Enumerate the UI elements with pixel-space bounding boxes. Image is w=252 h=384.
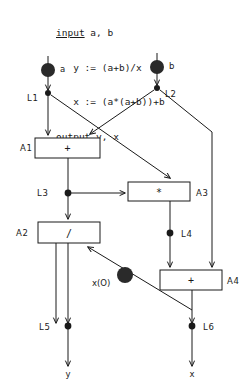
source-node-a[interactable]: a — [41, 63, 65, 77]
link-node-L2[interactable]: L2 — [154, 85, 177, 99]
link-node-L3[interactable]: L3 — [37, 188, 71, 198]
link-node-L6-dot[interactable] — [189, 323, 196, 330]
token-node-x0-label: x(O) — [92, 278, 110, 288]
dataflow-graph: + A1 * A3 / A2 + A4 a b — [0, 0, 252, 384]
source-node-b-dot[interactable] — [150, 60, 164, 74]
actor-A3-label: A3 — [196, 188, 209, 198]
link-node-L1-label: L1 — [27, 93, 39, 103]
link-node-L5-dot[interactable] — [65, 323, 72, 330]
actor-A2-operator: / — [66, 228, 72, 239]
output-label-x: x — [189, 369, 194, 379]
link-node-L2-dot[interactable] — [154, 85, 160, 91]
token-node-x0-dot[interactable] — [117, 267, 133, 283]
link-node-L1[interactable]: L1 — [27, 90, 51, 103]
actor-A4-label: A4 — [227, 276, 240, 286]
actor-A1[interactable]: + A1 — [20, 138, 100, 158]
source-node-a-label: a — [60, 64, 65, 74]
edge-L2-to-A4 — [160, 90, 212, 267]
actor-A2-label: A2 — [16, 228, 29, 238]
edge-L2-to-A1 — [90, 90, 154, 134]
source-node-a-dot[interactable] — [41, 63, 55, 77]
link-node-L5-label: L5 — [39, 322, 51, 332]
link-node-L4-label: L4 — [181, 229, 193, 239]
link-node-L1-dot[interactable] — [45, 90, 51, 96]
diagram-page: input a, b y := (a+b)/x x := (a*(a+b))+b… — [0, 0, 252, 384]
actor-A3-operator: * — [156, 187, 162, 198]
actor-A4[interactable]: + A4 — [160, 270, 240, 290]
output-label-y: y — [65, 369, 70, 379]
source-node-b-label: b — [169, 61, 174, 71]
link-node-L5[interactable]: L5 — [39, 322, 71, 332]
actor-A1-operator: + — [64, 143, 70, 154]
edge-L1-to-A3 — [51, 95, 170, 178]
link-node-L2-label: L2 — [165, 89, 177, 99]
graph-edges — [48, 53, 212, 366]
source-node-b[interactable]: b — [150, 60, 174, 74]
actor-A4-operator: + — [188, 275, 194, 286]
token-node-x0[interactable]: x(O) — [92, 267, 133, 288]
link-node-L3-dot[interactable] — [65, 190, 72, 197]
actor-A1-label: A1 — [20, 143, 33, 153]
link-node-L4-dot[interactable] — [167, 230, 174, 237]
link-node-L6-label: L6 — [203, 322, 215, 332]
actor-A2[interactable]: / A2 — [16, 222, 100, 243]
actor-A3[interactable]: * A3 — [128, 182, 209, 201]
link-node-L3-label: L3 — [37, 188, 49, 198]
